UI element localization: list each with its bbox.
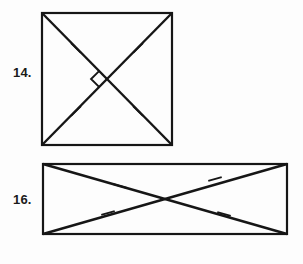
congruence-tick-upper-right — [208, 177, 221, 181]
figure-16-rectangle-with-diagonals — [0, 0, 303, 264]
congruence-tick-upper-left — [113, 184, 126, 188]
worksheet-page: 14. 16. — [0, 0, 303, 264]
